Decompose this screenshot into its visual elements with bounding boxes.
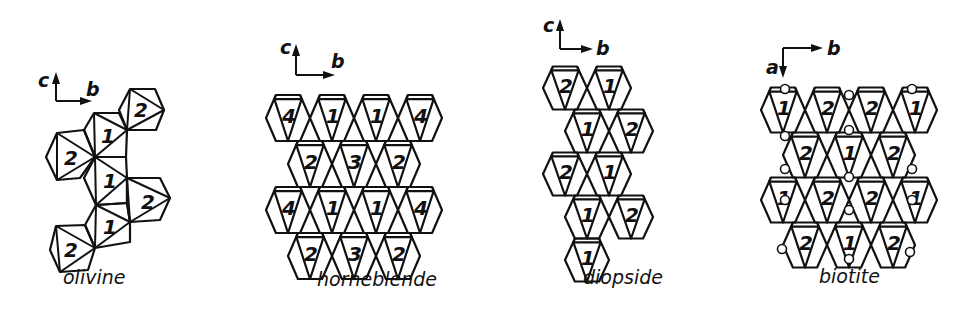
axes-icon: a b	[766, 37, 841, 78]
octahedron: 2	[609, 196, 653, 239]
olivine-label: 1	[103, 169, 117, 193]
horneblende-label: 1	[326, 196, 340, 220]
octahedron: 1	[761, 88, 805, 133]
axes-icon: c b	[38, 69, 100, 105]
panel-horneblende: c b 41142324114232 horneblende	[240, 0, 480, 314]
panel-diopside: c b 211221121 diopside	[520, 0, 720, 314]
biotite-label: 2	[865, 96, 879, 120]
horneblende-label: 3	[348, 242, 362, 266]
octahedron: 2	[805, 178, 849, 223]
axis-a-label: a	[766, 56, 779, 78]
diopside-label: 2	[559, 160, 573, 184]
hydroxyl-site-dot	[908, 165, 917, 174]
horneblende-label: 2	[304, 150, 318, 174]
olivine-label: 2	[64, 238, 78, 262]
axis-b-label: b	[331, 50, 345, 72]
octahedron: 4	[266, 187, 310, 233]
olivine-label: 2	[141, 190, 155, 214]
axis-c-label: c	[38, 69, 50, 91]
diopside-label: 1	[581, 117, 595, 141]
biotite-label: 2	[887, 141, 901, 165]
octahedron: 1	[354, 95, 398, 141]
biotite-label: 1	[909, 96, 923, 120]
horneblende-label: 1	[370, 196, 384, 220]
caption-horneblende: horneblende	[317, 268, 437, 290]
olivine-label: 2	[64, 146, 78, 170]
octahedron: 2	[609, 110, 653, 153]
octahedron: 4	[398, 95, 442, 141]
axis-b-label: b	[827, 37, 841, 59]
hydroxyl-site-dot	[781, 165, 790, 174]
horneblende-label: 1	[326, 104, 340, 128]
octahedron: 1	[310, 187, 354, 233]
octahedron: 2	[849, 88, 893, 133]
octahedron: 2	[543, 153, 587, 196]
octahedron: 3	[332, 141, 376, 187]
horneblende-diagram: c b 41142324114232	[240, 0, 480, 314]
biotite-label: 1	[843, 231, 857, 255]
octahedron: 4	[266, 95, 310, 141]
horneblende-label: 3	[348, 150, 362, 174]
axis-b-label: b	[86, 78, 100, 100]
axes-icon: c b	[543, 14, 610, 59]
octahedron: 1	[587, 153, 631, 196]
diopside-label: 2	[559, 74, 573, 98]
octahedron: 2	[543, 67, 587, 110]
horneblende-label: 1	[370, 104, 384, 128]
octahedron: 2	[871, 223, 915, 268]
olivine-label: 2	[134, 98, 148, 122]
octahedron: 2	[288, 141, 332, 187]
biotite-label: 2	[799, 231, 813, 255]
diopside-label: 2	[625, 203, 639, 227]
hydroxyl-site-dot	[778, 245, 787, 254]
octahedra: 211221121	[543, 67, 653, 282]
panel-biotite: a b 12212121221212 biotite	[740, 0, 970, 314]
axis-c-label: c	[543, 14, 555, 36]
octahedra: 41142324114232	[266, 95, 442, 279]
octahedron: 2	[783, 223, 827, 268]
biotite-label: 1	[777, 96, 791, 120]
olivine-label: 1	[103, 215, 117, 239]
octahedron: 1	[565, 196, 609, 239]
octahedron: 1	[565, 110, 609, 153]
octahedron: 1	[893, 88, 937, 133]
horneblende-label: 2	[392, 242, 406, 266]
hydroxyl-site-dot	[908, 85, 917, 94]
biotite-label: 2	[821, 96, 835, 120]
caption-biotite: biotite	[819, 265, 880, 287]
hydroxyl-site-dot	[908, 196, 917, 205]
hydroxyl-site-dot	[845, 255, 854, 264]
diopside-label: 1	[603, 160, 617, 184]
hydroxyl-site-dot	[781, 132, 790, 141]
hydroxyl-site-dot	[845, 91, 854, 100]
octahedron: 2	[376, 141, 420, 187]
horneblende-label: 2	[392, 150, 406, 174]
diopside-label: 2	[625, 117, 639, 141]
biotite-label: 2	[865, 186, 879, 210]
octahedron: 1	[310, 95, 354, 141]
olivine-label: 1	[101, 124, 115, 148]
biotite-label: 1	[843, 141, 857, 165]
caption-olivine: olivine	[63, 266, 125, 288]
biotite-label: 2	[821, 186, 835, 210]
panel-olivine: c b 2 1	[0, 0, 200, 314]
axis-c-label: c	[280, 36, 292, 58]
hydroxyl-site-dot	[781, 196, 790, 205]
hydroxyl-site-dot	[906, 248, 915, 257]
horneblende-label: 4	[281, 196, 296, 220]
axes-icon: c b	[280, 36, 345, 79]
diopside-label: 1	[603, 74, 617, 98]
hydroxyl-site-dot	[845, 206, 854, 215]
biotite-label: 2	[887, 231, 901, 255]
hydroxyl-site-dot	[845, 173, 854, 182]
octahedron: 4	[398, 187, 442, 233]
octahedron: 1	[587, 67, 631, 110]
octahedra: 12212121221212	[761, 85, 937, 268]
hydroxyl-site-dot	[781, 85, 790, 94]
diopside-label: 1	[581, 203, 595, 227]
horneblende-label: 4	[413, 104, 428, 128]
horneblende-label: 4	[281, 104, 296, 128]
octahedron: 2	[805, 88, 849, 133]
octahedron: 2	[849, 178, 893, 223]
caption-diopside: diopside	[583, 266, 663, 288]
